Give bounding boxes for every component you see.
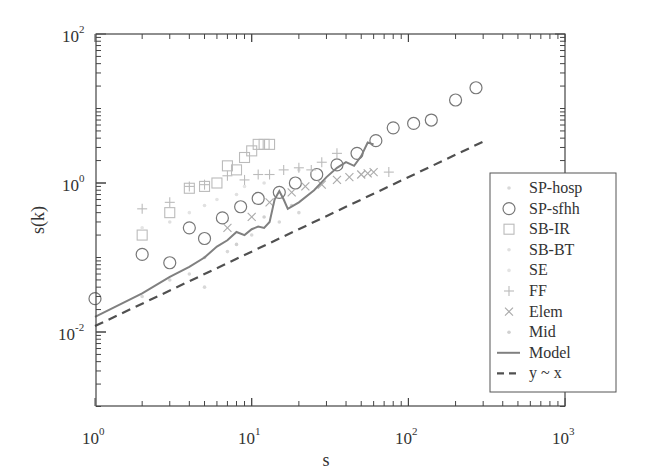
- square-marker-icon: [247, 146, 257, 156]
- x-tick-label: 100: [82, 425, 105, 448]
- dot-marker-icon: [226, 250, 230, 254]
- legend-label: y ~ x: [529, 364, 562, 382]
- square-marker-icon: [165, 208, 175, 218]
- series-sb-ir: [137, 139, 274, 240]
- legend: SP-hospSP-sfhhSB-IRSB-BTSEFFElemMidModel…: [490, 173, 616, 392]
- dot-marker-icon: [507, 248, 511, 252]
- circle-marker-icon: [252, 192, 264, 204]
- circle-marker-icon: [164, 257, 176, 269]
- dot-marker-icon: [235, 193, 239, 197]
- plus-marker-icon: [332, 148, 342, 158]
- legend-label: SE: [529, 261, 548, 278]
- dot-marker-icon: [262, 181, 266, 185]
- circle-marker-icon: [470, 82, 482, 94]
- series-y-x: [95, 142, 483, 327]
- dot-marker-icon: [140, 295, 144, 299]
- dot-marker-icon: [203, 204, 207, 208]
- x-marker-icon: [364, 169, 372, 177]
- dot-marker-icon: [297, 211, 301, 215]
- dot-marker-icon: [188, 211, 192, 215]
- square-marker-icon: [232, 165, 242, 175]
- plus-marker-icon: [222, 171, 232, 181]
- dot-marker-icon: [262, 215, 266, 219]
- circle-marker-icon: [89, 293, 101, 305]
- circle-marker-icon: [183, 222, 195, 234]
- legend-label: Elem: [529, 303, 563, 320]
- x-tick-label: 102: [395, 425, 418, 448]
- x-marker-icon: [333, 176, 341, 184]
- x-marker-icon: [223, 224, 231, 232]
- x-tick-label: 103: [552, 425, 575, 448]
- legend-label: SP-hosp: [529, 179, 582, 197]
- plus-marker-icon: [265, 170, 275, 180]
- legend-label: Mid: [529, 323, 556, 340]
- plus-marker-icon: [165, 197, 175, 207]
- circle-marker-icon: [387, 122, 399, 134]
- dot-marker-icon: [168, 220, 172, 224]
- dot-marker-icon: [188, 272, 192, 276]
- dot-marker-icon: [250, 233, 254, 237]
- x-tick-label: 101: [238, 425, 261, 448]
- plus-marker-icon: [137, 204, 147, 214]
- plot-area: [89, 82, 483, 326]
- x-marker-icon: [345, 173, 353, 181]
- dot-marker-icon: [277, 220, 281, 224]
- dot-marker-icon: [203, 285, 207, 289]
- dot-marker-icon: [215, 198, 219, 202]
- dot-marker-icon: [140, 226, 144, 230]
- square-marker-icon: [212, 178, 222, 188]
- x-marker-icon: [301, 182, 309, 190]
- legend-label: SB-IR: [529, 220, 570, 237]
- y-tick-label: 102: [62, 23, 85, 46]
- x-marker-icon: [288, 188, 296, 196]
- plus-marker-icon: [306, 165, 316, 175]
- y-axis-title: s(k): [28, 206, 49, 234]
- x-marker-icon: [248, 213, 256, 221]
- legend-label: SB-BT: [529, 241, 575, 258]
- dot-marker-icon: [507, 330, 511, 334]
- square-marker-icon: [253, 139, 263, 149]
- plus-marker-icon: [279, 165, 289, 175]
- circle-marker-icon: [199, 232, 211, 244]
- chart: 100 101 102 103 102 100 10-2 s s(k) SP-h…: [0, 0, 657, 474]
- plus-marker-icon: [294, 163, 304, 173]
- x-marker-icon: [370, 168, 378, 176]
- dot-marker-icon: [507, 269, 511, 273]
- series-ff: [137, 148, 394, 213]
- dot-marker-icon: [507, 186, 511, 190]
- series-sp-sfhh: [89, 82, 482, 305]
- circle-marker-icon: [136, 248, 148, 260]
- x-axis-title: s: [322, 450, 329, 470]
- dot-marker-icon: [243, 185, 247, 189]
- plus-marker-icon: [253, 170, 263, 180]
- square-marker-icon: [222, 161, 232, 171]
- circle-marker-icon: [289, 177, 301, 189]
- plus-marker-icon: [240, 175, 250, 185]
- circle-marker-icon: [216, 212, 228, 224]
- plus-marker-icon: [317, 157, 327, 167]
- y-tick-label: 10-2: [58, 321, 84, 344]
- y-tick-label: 100: [62, 172, 85, 195]
- legend-label: FF: [529, 282, 547, 299]
- circle-marker-icon: [370, 135, 382, 147]
- plus-marker-icon: [384, 167, 394, 177]
- circle-marker-icon: [450, 94, 462, 106]
- legend-label: Model: [529, 344, 571, 361]
- square-marker-icon: [137, 230, 147, 240]
- circle-marker-icon: [425, 114, 437, 126]
- circle-marker-icon: [408, 117, 420, 129]
- dot-marker-icon: [235, 243, 239, 247]
- circle-marker-icon: [235, 201, 247, 213]
- square-marker-icon: [240, 152, 250, 162]
- legend-label: SP-sfhh: [529, 200, 580, 217]
